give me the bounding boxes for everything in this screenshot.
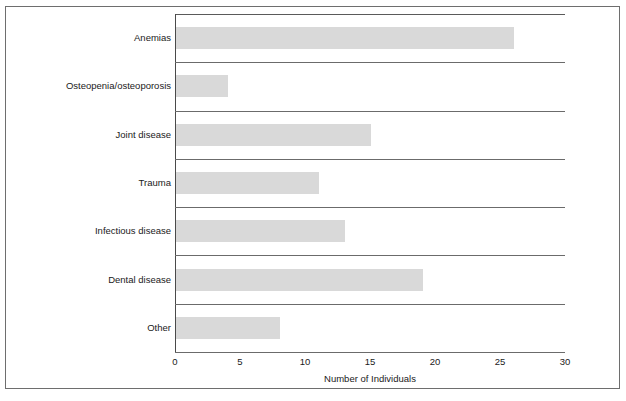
x-axis-title: Number of Individuals [175,373,565,384]
x-tick-label: 30 [545,356,585,367]
category-label: Other [0,322,171,333]
x-tick-label: 0 [155,356,195,367]
x-tick-label: 5 [220,356,260,367]
plot-top-border [175,14,565,15]
category-label: Anemias [0,32,171,43]
bar [176,220,345,242]
plot-area [175,14,565,352]
category-label: Trauma [0,177,171,188]
x-axis-line [175,352,565,353]
category-separator [175,207,565,208]
category-separator [175,304,565,305]
category-label: Dental disease [0,274,171,285]
category-separator [175,111,565,112]
category-label: Osteopenia/osteoporosis [0,80,171,91]
category-label: Joint disease [0,129,171,140]
chart-figure: AnemiasOsteopenia/osteoporosisJoint dise… [0,0,626,401]
category-label: Infectious disease [0,225,171,236]
bar [176,27,514,49]
x-tick-label: 15 [350,356,390,367]
bar [176,172,319,194]
category-separator [175,255,565,256]
bar [176,75,228,97]
category-separator [175,62,565,63]
bar [176,317,280,339]
bar [176,124,371,146]
x-tick-label: 20 [415,356,455,367]
category-separator [175,159,565,160]
x-tick-label: 25 [480,356,520,367]
x-tick-label: 10 [285,356,325,367]
bar [176,269,423,291]
